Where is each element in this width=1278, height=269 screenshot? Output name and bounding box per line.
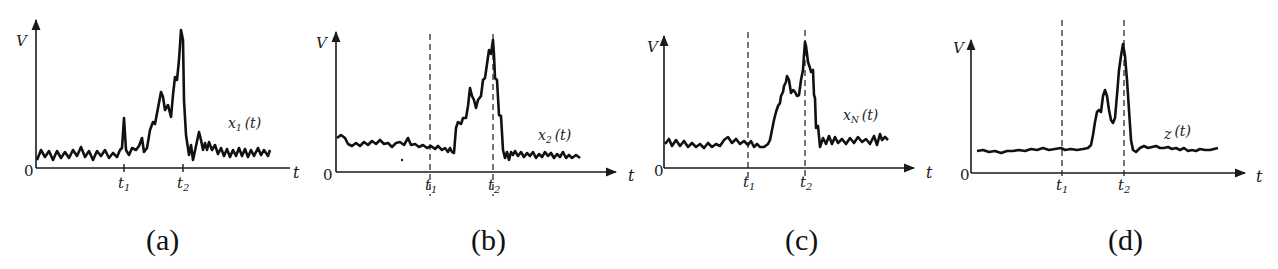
- signal-label: z(t): [1163, 123, 1191, 142]
- signal-xn: [665, 42, 888, 148]
- caption-a: (a): [146, 223, 179, 257]
- t1-label: t1: [743, 173, 755, 192]
- panel-d: V 0 t1 t2 t z(t): [953, 20, 1263, 195]
- t2-label: t2: [800, 173, 812, 192]
- y-axis-label: V: [16, 32, 29, 50]
- x-axis-label: t: [293, 163, 300, 182]
- origin-label: 0: [960, 166, 970, 184]
- caption-b: (b): [471, 223, 506, 257]
- x-axis-label: t: [926, 163, 933, 182]
- y-axis-label: V: [953, 39, 966, 57]
- t1-label: t1: [118, 174, 130, 193]
- signal-label: x1(t): [228, 115, 261, 133]
- t2-label: t2: [488, 176, 500, 195]
- signal-label: x2(t): [538, 127, 571, 145]
- panel-c: V 0 t1 t2 t xN(t): [647, 30, 933, 192]
- origin-label: 0: [323, 166, 333, 184]
- t1-label: t1: [425, 176, 437, 195]
- x-axis-label: t: [628, 166, 635, 185]
- speck: [401, 159, 403, 161]
- caption-c: (c): [785, 223, 818, 257]
- t2-label: t2: [177, 174, 189, 193]
- signal-x1: [37, 30, 270, 160]
- signal-label: xN(t): [843, 107, 878, 125]
- y-axis-label: V: [316, 34, 329, 52]
- t2-label: t2: [1118, 176, 1130, 195]
- figure-four-panels: V 0 t t1 t2 x1(t) V 0 t1 t2 t x2(t) V 0 …: [0, 0, 1278, 269]
- caption-d: (d): [1108, 223, 1143, 257]
- panel-a: V 0 t t1 t2 x1(t): [16, 20, 300, 193]
- t1-label: t1: [1056, 176, 1068, 195]
- x-axis-label: t: [1256, 167, 1263, 186]
- origin-label: 0: [654, 162, 664, 180]
- y-axis-label: V: [647, 38, 660, 56]
- panel-b: V 0 t1 t2 t x2(t): [316, 32, 635, 196]
- origin-label: 0: [24, 162, 34, 180]
